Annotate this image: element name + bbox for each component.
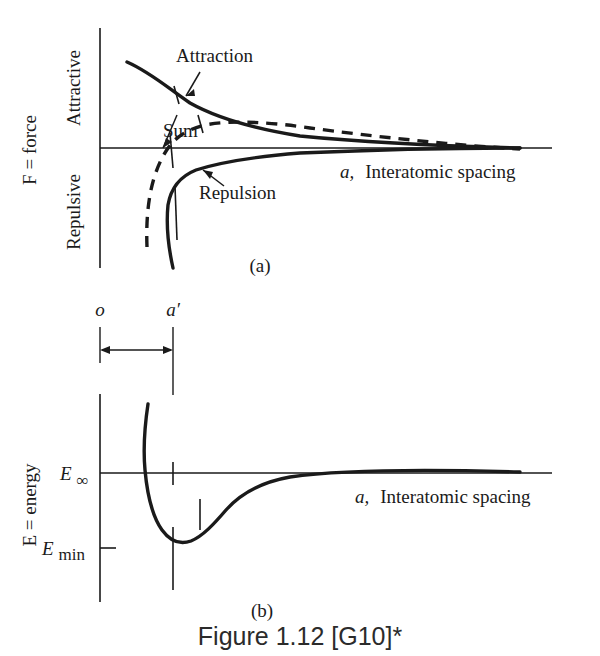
panel-b-ylabel-emin-symbol: E [41,538,54,559]
panel-b-ylabel-einfinity-subscript: ∞ [77,471,89,490]
figure-svg: F = force Attractive Repulsive Attractio… [0,0,600,656]
leader-attraction-arrow [186,72,200,96]
panel-b-ylabel-einfinity: E ∞ [59,463,89,490]
panel-a-y-axis-upper-label: Attractive [63,50,84,126]
panel-b-label: (b) [251,600,273,622]
figure-container: F = force Attractive Repulsive Attractio… [0,0,600,656]
panel-b-ylabel-einfinity-symbol: E [59,463,72,484]
panel-b-x-axis-text: Interatomic spacing [380,486,531,507]
dimension-label-o: o [95,299,105,320]
panel-b: o a′ E = [19,299,552,622]
panel-b-x-axis-label: a, Interatomic spacing [355,486,531,507]
panel-b-x-axis-symbol: a, [355,486,369,507]
panel-a-x-axis-label: a, Interatomic spacing [340,161,516,182]
figure-caption: Figure 1.12 [G10]* [198,622,403,650]
panel-a-tick-sum [198,115,203,133]
panel-a-y-axis-title: F = force [19,115,40,185]
panel-a-x-axis-text: Interatomic spacing [365,161,516,182]
panel-b-y-axis-title: E = energy [19,463,40,547]
label-attraction: Attraction [176,45,254,66]
panel-a-x-axis-symbol: a, [340,161,354,182]
panel-a: F = force Attractive Repulsive Attractio… [19,28,552,277]
panel-a-reference-line [175,186,177,240]
panel-a-y-axis-lower-label: Repulsive [63,174,84,250]
panel-a-label: (a) [249,255,270,277]
label-repulsion: Repulsion [199,182,277,203]
panel-b-ylabel-emin: E min [41,538,86,564]
label-sum: Sum [163,120,198,141]
dimension-label-a-prime: a′ [166,299,181,320]
panel-b-ylabel-emin-subscript: min [59,545,86,564]
dimension-arrow [100,346,173,354]
